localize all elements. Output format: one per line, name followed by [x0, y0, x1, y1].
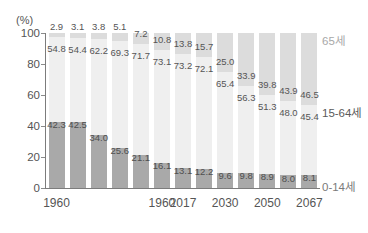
value-label-65-plus: 33.9 [237, 71, 256, 81]
value-label-65-plus: 7.2 [134, 29, 147, 39]
value-label-15-64: 65.4 [216, 79, 235, 89]
value-label-0-14: 21.1 [132, 153, 151, 163]
value-label-65-plus: 25.0 [216, 57, 235, 67]
value-label-15-64: 62.2 [89, 46, 108, 56]
value-label-0-14: 8.9 [261, 172, 274, 182]
value-label-65-plus: 10.8 [153, 35, 172, 45]
value-label-0-14: 8.0 [282, 174, 295, 184]
value-label-65-plus: 43.9 [279, 86, 298, 96]
legend-item-65-plus: 65세 [322, 32, 346, 48]
value-label-65-plus: 46.5 [300, 90, 319, 100]
bar-segment-65-plus [112, 33, 128, 41]
value-label-15-64: 69.3 [111, 48, 130, 58]
x-axis-label-2050-10: 2050 [254, 196, 281, 210]
bar-segment-0-14 [70, 122, 86, 188]
value-label-0-14: 25.6 [111, 146, 130, 156]
value-label-15-64: 73.1 [153, 57, 172, 67]
y-axis-tick-40: 40 [6, 120, 40, 132]
legend-item-0-14: 0-14세 [322, 178, 356, 194]
bar-stack [238, 33, 254, 188]
value-label-15-64: 73.2 [174, 61, 193, 71]
value-label-0-14: 42.3 [47, 120, 66, 130]
y-axis-tick-100: 100 [6, 27, 40, 39]
value-label-0-14: 34.0 [89, 133, 108, 143]
value-label-65-plus: 3.1 [71, 22, 84, 32]
value-label-65-plus: 5.1 [113, 22, 126, 32]
x-axis-label-2017-6: 2017 [170, 196, 197, 210]
y-axis-tick-20: 20 [6, 151, 40, 163]
population-age-structure-chart: (%) 020406080100 19601960201720302050206… [0, 0, 368, 233]
x-axis-line [45, 188, 320, 189]
value-label-0-14: 9.6 [219, 171, 232, 181]
value-label-15-64: 51.3 [258, 102, 277, 112]
value-label-15-64: 71.7 [132, 51, 151, 61]
bar-stack [49, 33, 65, 188]
value-label-15-64: 72.1 [195, 64, 214, 74]
value-label-15-64: 54.4 [68, 45, 87, 55]
value-label-65-plus: 3.8 [92, 22, 105, 32]
value-label-0-14: 42.5 [68, 120, 87, 130]
x-axis-label-1960-0: 1960 [43, 196, 70, 210]
value-label-0-14: 9.8 [240, 171, 253, 181]
value-label-15-64: 48.0 [279, 108, 298, 118]
value-label-15-64: 45.4 [300, 112, 319, 122]
bar-stack [196, 33, 212, 188]
value-label-65-plus: 39.8 [258, 80, 277, 90]
y-axis-tick-0: 0 [6, 182, 40, 194]
x-axis-label-2067-12: 2067 [296, 196, 323, 210]
value-label-0-14: 16.1 [153, 161, 172, 171]
value-label-65-plus: 2.9 [50, 22, 63, 32]
bar-stack [70, 33, 86, 188]
x-axis-label-2030-8: 2030 [212, 196, 239, 210]
value-label-0-14: 12.2 [195, 167, 214, 177]
bar-segment-0-14 [49, 122, 65, 188]
y-axis-tick-labels: 020406080100 [0, 0, 40, 233]
value-label-15-64: 56.3 [237, 93, 256, 103]
y-axis-tick-60: 60 [6, 89, 40, 101]
bar-stack [91, 33, 107, 188]
y-axis-tick-80: 80 [6, 58, 40, 70]
legend-item-15-64: 15-64세 [322, 104, 362, 120]
value-label-65-plus: 15.7 [195, 42, 214, 52]
value-label-65-plus: 13.8 [174, 39, 193, 49]
value-label-0-14: 13.1 [174, 166, 193, 176]
value-label-0-14: 8.1 [303, 173, 316, 183]
value-label-15-64: 54.8 [47, 44, 66, 54]
